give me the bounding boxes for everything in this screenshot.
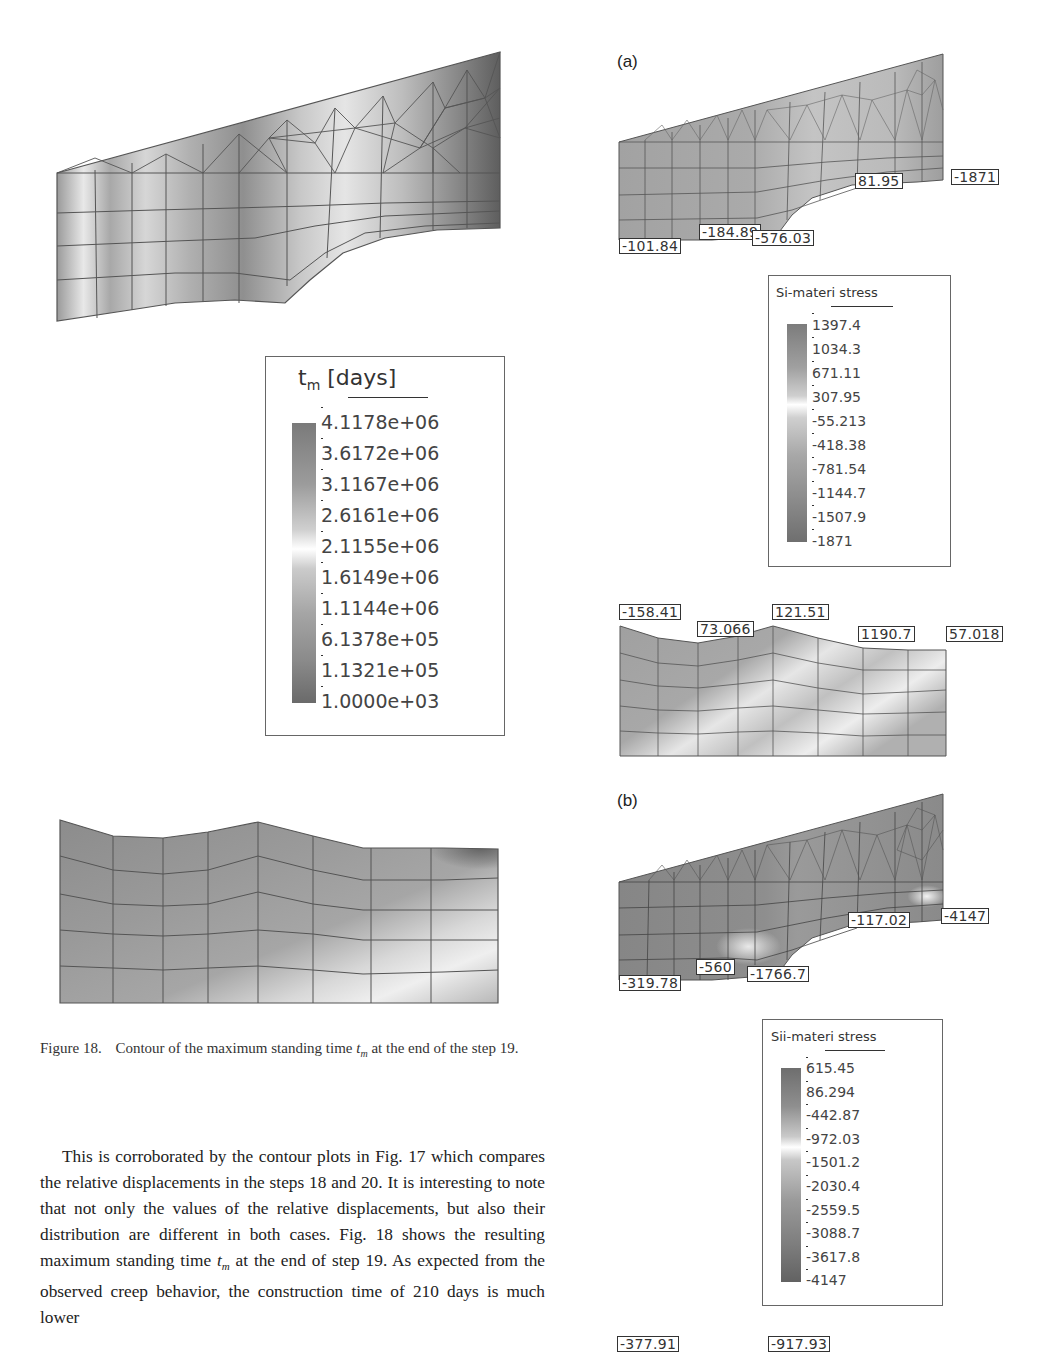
paragraph-symbol-sub: m	[222, 1260, 230, 1272]
colorbar	[787, 324, 807, 542]
legend-value: -1507.9	[812, 505, 866, 529]
legend-title: tm [days]	[298, 365, 396, 393]
figure18-top-mesh-contour	[55, 48, 505, 328]
paragraph-symbol: tm	[217, 1251, 230, 1270]
caption-symbol-sub: m	[360, 1048, 367, 1059]
legend-value: -55.213	[812, 409, 866, 433]
legend-value: -1501.2	[806, 1151, 860, 1175]
value-tag: -377.91	[617, 1336, 679, 1352]
legend-underline	[825, 1050, 885, 1051]
body-paragraph: This is corroborated by the contour plot…	[40, 1144, 545, 1331]
value-tag: -1766.7	[747, 966, 809, 982]
legend-value: -3088.7	[806, 1222, 860, 1246]
legend-title-unit: [days]	[320, 365, 396, 390]
legend-underline	[831, 306, 893, 307]
paragraph: This is corroborated by the contour plot…	[40, 1144, 545, 1331]
legend-value: -1144.7	[812, 481, 866, 505]
legend-value: -781.54	[812, 457, 866, 481]
legend-values: 615.45 86.294 -442.87 -972.03 -1501.2 -2…	[806, 1057, 860, 1293]
value-tag: -117.02	[848, 912, 910, 928]
legend-value: 3.6172e+06	[321, 438, 439, 469]
legend-value: 671.11	[812, 361, 866, 385]
legend-value: 1397.4	[812, 313, 866, 337]
panel-b-top-mesh-contour	[617, 790, 947, 990]
caption-text-after: at the end of the step 19.	[371, 1040, 518, 1056]
colorbar	[781, 1068, 801, 1282]
legend-values: 4.1178e+06 3.6172e+06 3.1167e+06 2.6161e…	[321, 407, 439, 717]
figure18-bottom-mesh-contour	[58, 818, 503, 1008]
value-tag: 73.066	[697, 621, 754, 637]
figure18-legend: tm [days] 4.1178e+06 3.6172e+06 3.1167e+…	[265, 356, 505, 736]
legend-value: -3617.8	[806, 1246, 860, 1270]
legend-underline	[348, 397, 428, 398]
legend-value: 6.1378e+05	[321, 624, 439, 655]
legend-title-symbol: t	[298, 365, 307, 390]
value-tag: -101.84	[619, 238, 681, 254]
legend-value: 1.6149e+06	[321, 562, 439, 593]
panel-a-top-mesh-contour	[617, 50, 947, 250]
value-tag: -917.93	[768, 1336, 830, 1352]
legend-value: 307.95	[812, 385, 866, 409]
caption-text-before: Contour of the maximum standing time	[115, 1040, 352, 1056]
legend-value: 3.1167e+06	[321, 469, 439, 500]
value-tag: -319.78	[619, 975, 681, 991]
caption-number: Figure 18.	[40, 1040, 102, 1056]
legend-value: 1.0000e+03	[321, 686, 439, 717]
legend-value: -418.38	[812, 433, 866, 457]
legend-title: Sii-materi stress	[771, 1029, 876, 1044]
legend-value: -972.03	[806, 1128, 860, 1152]
value-tag: -560	[696, 959, 735, 975]
legend-value: 615.45	[806, 1057, 860, 1081]
legend-value: 1.1321e+05	[321, 655, 439, 686]
legend-values: 1397.4 1034.3 671.11 307.95 -55.213 -418…	[812, 313, 866, 553]
figure-caption: Figure 18. Contour of the maximum standi…	[40, 1036, 540, 1066]
legend-value: -1871	[812, 529, 866, 553]
legend-value: 2.1155e+06	[321, 531, 439, 562]
legend-value: 2.6161e+06	[321, 500, 439, 531]
value-tag: -158.41	[619, 604, 681, 620]
legend-value: 1.1144e+06	[321, 593, 439, 624]
value-tag: 1190.7	[858, 626, 915, 642]
colorbar	[292, 423, 316, 703]
value-tag: 121.51	[772, 604, 829, 620]
legend-value: -4147	[806, 1269, 860, 1293]
legend-value: -2559.5	[806, 1199, 860, 1223]
value-tag: 81.95	[855, 173, 903, 189]
legend-value: -2030.4	[806, 1175, 860, 1199]
value-tag: -4147	[941, 908, 989, 924]
legend-value: 86.294	[806, 1081, 860, 1105]
legend-title: Si-materi stress	[776, 285, 878, 300]
caption-symbol: tm	[356, 1040, 367, 1056]
value-tag: 57.018	[946, 626, 1003, 642]
value-tag: -1871	[951, 169, 999, 185]
panel-b-legend: Sii-materi stress 615.45 86.294 -442.87 …	[762, 1019, 943, 1306]
legend-title-subscript: m	[307, 377, 321, 393]
panel-a-legend: Si-materi stress 1397.4 1034.3 671.11 30…	[768, 275, 951, 567]
legend-value: 1034.3	[812, 337, 866, 361]
value-tag: -576.03	[752, 230, 814, 246]
legend-value: -442.87	[806, 1104, 860, 1128]
legend-value: 4.1178e+06	[321, 407, 439, 438]
